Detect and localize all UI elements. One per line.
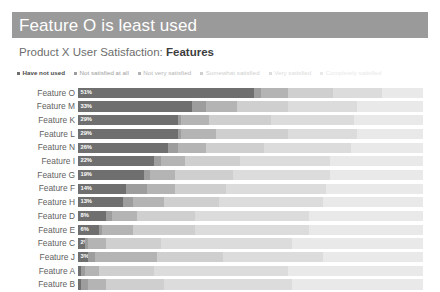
bar-segment[interactable] [192,101,206,111]
bar-segment[interactable] [154,266,289,276]
bar-segment[interactable] [88,252,95,262]
legend-item[interactable]: Completely satisfied [320,70,381,76]
bar-segment[interactable] [309,211,423,221]
bar-segment[interactable]: 19% [78,170,144,180]
bar-segment[interactable]: 22% [78,156,154,166]
bar-segment[interactable] [178,143,206,153]
legend-item[interactable]: Somewhat satisfied [200,70,260,76]
bar-segment[interactable] [323,197,423,207]
bar-segment[interactable] [330,156,423,166]
bar-segment[interactable] [326,184,423,194]
bar-segment[interactable] [185,156,240,166]
bar-segment[interactable] [233,170,330,180]
chart-row[interactable]: Feature D8% [0,209,440,223]
bar-segment[interactable] [209,115,271,125]
bar-segment[interactable] [81,279,88,289]
chart-row[interactable]: Feature E6% [0,223,440,237]
bar-segment[interactable] [85,266,99,276]
chart-row[interactable]: Feature H13% [0,196,440,210]
chart-row[interactable]: Feature C2% [0,237,440,251]
bar-segment[interactable] [99,266,154,276]
chart-row[interactable]: Feature N26% [0,141,440,155]
chart-row[interactable]: Feature O51% [0,86,440,100]
bar-segment[interactable] [292,279,423,289]
bar-segment[interactable] [95,252,157,262]
bar-segment[interactable] [309,225,423,235]
bar-segment[interactable]: 29% [78,129,178,139]
bar-segment[interactable] [219,197,323,207]
chart-row[interactable]: Feature A [0,264,440,278]
legend-item[interactable]: Very satisfied [269,70,312,76]
bar-segment[interactable]: 6% [78,225,99,235]
bar-segment[interactable] [195,225,309,235]
bar-segment[interactable] [106,238,161,248]
bar-segment[interactable] [288,101,357,111]
bar-segment[interactable] [271,115,354,125]
bar-segment[interactable] [351,143,423,153]
bar-segment[interactable] [126,184,147,194]
bar-segment[interactable] [102,225,133,235]
bar-segment[interactable] [181,129,216,139]
bar-segment[interactable]: 26% [78,143,168,153]
bar-segment[interactable] [206,143,265,153]
bar-segment[interactable] [137,211,196,221]
bar-segment[interactable] [133,197,164,207]
bar-segment[interactable] [357,129,423,139]
chart-row[interactable]: Feature K29% [0,113,440,127]
bar-segment[interactable] [357,101,423,111]
bar-segment[interactable] [195,211,309,221]
bar-segment[interactable] [144,170,151,180]
bar-segment[interactable] [106,279,165,289]
bar-segment[interactable] [288,88,333,98]
bar-segment[interactable] [123,197,133,207]
bar-segment[interactable] [88,279,105,289]
bar-segment[interactable]: 14% [78,184,126,194]
bar-segment[interactable]: 8% [78,211,106,221]
chart-row[interactable]: Feature J3% [0,250,440,264]
chart-row[interactable]: Feature I22% [0,154,440,168]
chart-row[interactable]: Feature M33% [0,100,440,114]
bar-segment[interactable] [237,101,289,111]
bar-segment[interactable] [164,279,292,289]
bar-segment[interactable] [330,170,423,180]
bar-segment[interactable] [161,238,292,248]
bar-segment[interactable] [150,170,174,180]
bar-segment[interactable] [382,88,423,98]
chart-row[interactable]: Feature B [0,278,440,292]
bar-segment[interactable] [147,184,175,194]
bar-segment[interactable] [223,252,323,262]
bar-segment[interactable] [106,211,113,221]
bar-segment[interactable] [254,88,261,98]
bar-segment[interactable] [264,143,350,153]
bar-segment[interactable] [88,238,105,248]
bar-segment[interactable] [168,143,178,153]
bar-segment[interactable] [261,88,289,98]
bar-segment[interactable]: 13% [78,197,123,207]
bar-segment[interactable] [226,184,326,194]
bar-segment[interactable]: 2% [78,238,85,248]
legend-item[interactable]: Not very satisfied [138,70,191,76]
bar-segment[interactable] [112,211,136,221]
bar-segment[interactable] [175,170,234,180]
bar-segment[interactable]: 33% [78,101,192,111]
bar-segment[interactable] [133,225,195,235]
bar-segment[interactable] [333,88,381,98]
bar-segment[interactable] [288,129,357,139]
bar-segment[interactable]: 3% [78,252,88,262]
bar-segment[interactable] [240,156,330,166]
bar-segment[interactable] [157,252,223,262]
bar-segment[interactable] [206,101,237,111]
bar-segment[interactable] [323,252,423,262]
bar-segment[interactable] [216,129,288,139]
bar-segment[interactable] [164,197,219,207]
bar-segment[interactable] [154,156,161,166]
bar-segment[interactable]: 29% [78,115,178,125]
bar-segment[interactable] [161,156,185,166]
legend-item[interactable]: Not satisfied at all [74,70,129,76]
bar-segment[interactable] [175,184,227,194]
bar-segment[interactable] [354,115,423,125]
chart-row[interactable]: Feature G19% [0,168,440,182]
bar-segment[interactable]: 51% [78,88,254,98]
bar-segment[interactable] [292,238,423,248]
chart-row[interactable]: Feature L29% [0,127,440,141]
